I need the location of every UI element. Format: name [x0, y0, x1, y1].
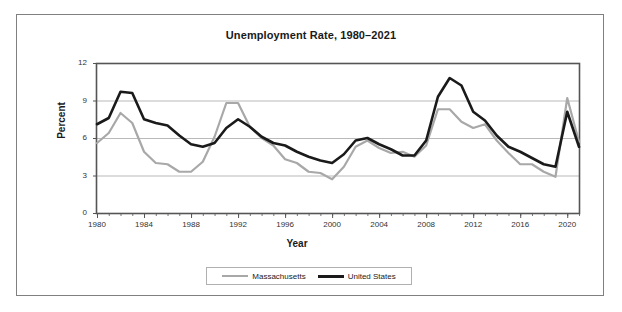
x-tick-label: 2016	[500, 220, 540, 229]
chart-svg	[17, 15, 605, 297]
legend-line-icon-united-states	[318, 275, 344, 278]
x-tick-label: 2000	[312, 220, 352, 229]
x-tick-label: 2012	[453, 220, 493, 229]
legend-item-massachusetts: Massachusetts	[222, 272, 305, 281]
x-tick-label: 2020	[547, 220, 587, 229]
x-tick-label: 2004	[359, 220, 399, 229]
chart-legend: Massachusetts United States	[206, 267, 412, 285]
y-tick-label: 12	[65, 58, 87, 67]
legend-label: United States	[348, 272, 396, 281]
y-tick-label: 9	[65, 96, 87, 105]
chart-figure: Unemployment Rate, 1980–2021 036912 1980…	[16, 14, 604, 296]
x-tick-label: 1984	[124, 220, 164, 229]
x-tick-label: 1980	[77, 220, 117, 229]
legend-item-united-states: United States	[318, 272, 396, 281]
x-tick-label: 1992	[218, 220, 258, 229]
x-tick-label: 1988	[171, 220, 211, 229]
y-tick-label: 0	[65, 208, 87, 217]
y-tick-label: 6	[65, 133, 87, 142]
plot-area: 036912 198019841988199219962000200420082…	[17, 15, 605, 297]
x-tick-label: 2008	[406, 220, 446, 229]
legend-line-icon-massachusetts	[222, 275, 248, 277]
tick-marks	[93, 64, 580, 219]
legend-label: Massachusetts	[252, 272, 305, 281]
x-axis-title: Year	[17, 238, 577, 249]
x-tick-label: 1996	[265, 220, 305, 229]
series-line-united-states	[97, 78, 579, 167]
y-tick-label: 3	[65, 171, 87, 180]
y-axis-title: Percent	[56, 91, 67, 151]
